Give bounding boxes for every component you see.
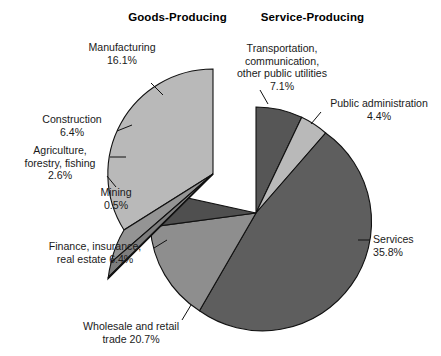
label-mining: Mining 0.5% [83,186,149,211]
label-construction: Construction 6.4% [25,113,119,138]
label-transportation: Transportation, communication, other pub… [218,42,346,92]
pie-chart-figure: Goods-Producing Service-Producing [0,0,441,356]
label-agriculture-forestry-fishing: Agriculture, forestry, fishing 2.6% [8,144,112,182]
goods-producing-title: Goods-Producing [105,11,250,23]
label-services: Services 35.8% [373,233,439,258]
label-public-administration: Public administration 4.4% [318,97,440,122]
label-finance-insurance-real-estate: Finance, insurance, real estate 6.4% [35,240,155,265]
slice-wholesale-retail-trade [150,213,256,311]
slice-services [199,133,371,331]
label-manufacturing: Manufacturing 16.1% [62,41,182,66]
slice-transportation [256,107,302,213]
leader-finance [154,240,167,248]
leader-wholesale [182,305,191,320]
leader-manufacturing [151,83,163,95]
slice-finance-insurance-real-estate [150,191,256,228]
label-wholesale-retail-trade: Wholesale and retail trade 20.7% [71,320,191,345]
leader-construction [117,125,132,131]
service-producing-title: Service-Producing [240,11,385,23]
slice-public-administration [256,117,326,213]
